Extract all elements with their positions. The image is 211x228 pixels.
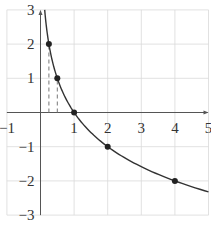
data-point: [105, 144, 111, 150]
curve-line: [45, 10, 209, 192]
x-tick-label: 3: [138, 120, 146, 136]
x-tick-label: 5: [205, 120, 211, 136]
y-tick-label: 1: [27, 70, 35, 86]
data-point: [54, 75, 60, 81]
x-tick-labels: −112345: [0, 120, 211, 136]
x-tick-label: 1: [70, 120, 78, 136]
y-tick-label: 2: [27, 36, 35, 52]
x-axis-arrow-icon: [204, 111, 209, 115]
y-tick-label: −1: [19, 139, 35, 155]
y-tick-label: 3: [27, 2, 35, 18]
y-axis-arrow-icon: [39, 10, 43, 15]
log-chart: −112345 −3−2−1123: [0, 0, 211, 228]
data-point: [71, 110, 77, 116]
data-point: [172, 178, 178, 184]
y-tick-label: −2: [19, 173, 35, 189]
x-tick-label: 4: [171, 120, 179, 136]
x-tick-label: 2: [104, 120, 112, 136]
data-point: [46, 41, 52, 47]
y-tick-label: −3: [19, 207, 35, 223]
x-tick-label: −1: [0, 120, 15, 136]
